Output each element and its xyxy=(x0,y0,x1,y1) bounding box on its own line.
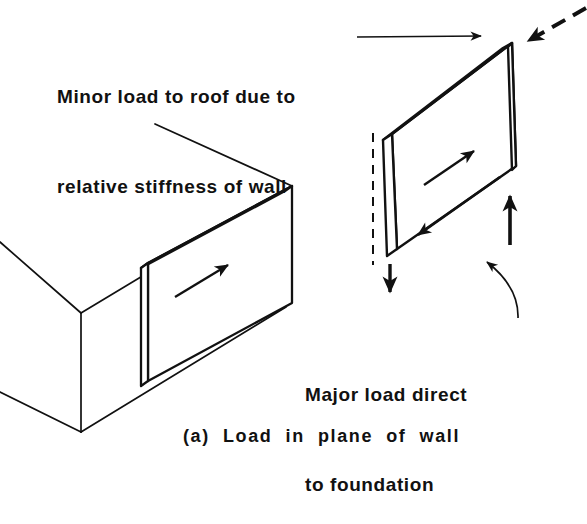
wall-left-end-thickness xyxy=(141,263,148,386)
annotation-major-load: Major load direct to foundation xyxy=(305,320,467,524)
annotation-minor-load: Minor load to roof due to relative stiff… xyxy=(57,22,296,262)
annotation-minor-load-line1: Minor load to roof due to xyxy=(57,82,296,112)
box-bottom-left-edge xyxy=(0,392,81,432)
minor-load-leader-arrow xyxy=(357,36,481,37)
annotation-minor-load-line2: relative stiffness of wall xyxy=(57,172,296,202)
figure-canvas: Minor load to roof due to relative stiff… xyxy=(0,0,587,524)
major-load-leader-arrow xyxy=(487,262,518,318)
annotation-major-load-line2: to foundation xyxy=(305,470,467,500)
applied-load-arrow-dashed xyxy=(528,8,586,41)
figure-caption: (a) Load in plane of wall xyxy=(183,424,460,448)
free-wall-face xyxy=(392,43,516,249)
annotation-major-load-line1: Major load direct xyxy=(305,380,467,410)
isolated-shear-wall xyxy=(383,43,516,256)
